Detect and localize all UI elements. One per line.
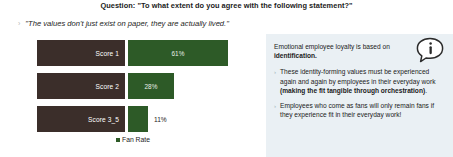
bar-chart: Score 1 61% Score 2 28% Score 3_5 [0,36,266,157]
statement-row: › "The values don't just exist on paper,… [18,18,229,29]
info-lead-emphasis: identification. [274,52,317,59]
category-label: Score 3_5 [88,116,125,123]
category-label: Score 2 [96,83,125,90]
chevron-right-icon: › [274,67,276,76]
legend-swatch-icon [116,138,120,142]
chart-legend: Fan Rate [0,136,266,143]
speech-bubble-info-icon [415,36,445,66]
info-lead-text: Emotional employee loyalty is based on [274,43,390,50]
list-item-text-emphasis: (making the fit tangible through orchest… [280,87,425,94]
statement-text: "The values don't just exist on paper, t… [25,18,229,29]
value-bar [128,106,148,132]
chevron-right-icon: › [18,18,20,29]
list-item-text: These identity-forming values must be ex… [280,67,444,95]
list-item-text-before: These identity-forming values must be ex… [280,68,435,84]
page-title: Question: "To what extent do you agree w… [0,1,453,10]
category-box: Score 1 [37,40,125,66]
list-item-text: Employees who come as fans will only rem… [280,101,444,119]
value-label: 11% [154,106,167,132]
slide-canvas: Question: "To what extent do you agree w… [0,0,453,157]
info-panel: Emotional employee loyalty is based on i… [266,34,453,157]
list-item: › These identity-forming values must be … [274,67,444,95]
list-item-text-after: . [425,87,427,94]
chevron-right-icon: › [274,101,276,110]
value-label: 28% [144,83,157,90]
category-label: Score 1 [96,50,125,57]
list-item: › Employees who come as fans will only r… [274,101,444,119]
info-lead: Emotional employee loyalty is based on i… [274,42,407,60]
value-bar: 28% [128,73,174,99]
value-bar: 61% [128,40,228,66]
category-box: Score 3_5 [37,106,125,132]
category-box: Score 2 [37,73,125,99]
value-label: 61% [171,50,184,57]
list-item-text-before: Employees who come as fans will only rem… [280,102,434,118]
legend-label: Fan Rate [122,136,150,143]
